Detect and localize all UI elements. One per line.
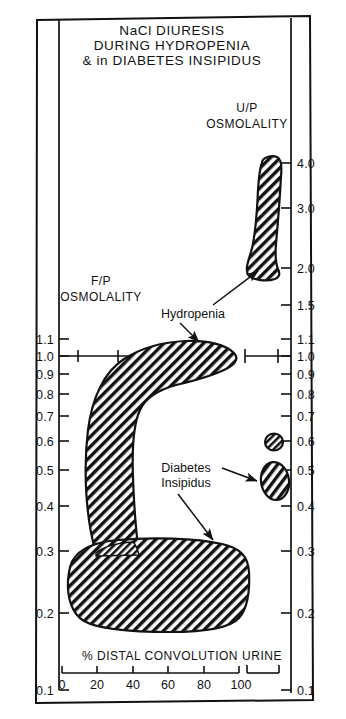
diabetes-arrow-to-urine xyxy=(222,468,257,481)
x-tick-label: 0 xyxy=(59,678,66,692)
x-tick-label: 60 xyxy=(161,678,175,692)
left-tick-label: 0.6 xyxy=(36,435,54,449)
right-tick-label: 0.9 xyxy=(297,368,315,382)
hydropenia-band xyxy=(86,341,237,553)
hydropenia-annotation-label: Hydropenia xyxy=(161,307,225,321)
right-axis-ticks xyxy=(281,163,291,690)
left-tick-label: 0.5 xyxy=(36,464,54,478)
x-tick-label: 20 xyxy=(90,678,104,692)
right-axis-label-line2: OSMOLALITY xyxy=(206,117,288,131)
left-tick-label: 0.3 xyxy=(36,545,54,559)
right-tick-label: 0.6 xyxy=(297,435,315,449)
urine-bracket xyxy=(247,665,279,673)
chart-svg: NaCl DIURESIS DURING HYDROPENIA & in DIA… xyxy=(0,0,346,719)
right-tick-label: 0.2 xyxy=(297,607,315,621)
left-axis-tick-labels: 1.1 1.0 0.9 0.8 0.7 0.6 0.5 0.4 0.3 0.2 … xyxy=(36,333,54,698)
right-tick-label: 1.0 xyxy=(297,350,315,364)
left-tick-label: 0.7 xyxy=(36,410,54,424)
urine-axis-label: URINE xyxy=(242,649,282,663)
hydropenia-arrow-to-band xyxy=(180,323,199,342)
title-line-2: DURING HYDROPENIA xyxy=(94,38,250,53)
diabetes-insipidus-band xyxy=(68,538,249,632)
figure-panel: NaCl DIURESIS DURING HYDROPENIA & in DIA… xyxy=(0,0,346,719)
x-tick-label: 80 xyxy=(197,678,211,692)
right-tick-label: 3.0 xyxy=(297,202,315,216)
x-tick-label: 100 xyxy=(231,678,252,692)
left-tick-label: 0.2 xyxy=(36,607,54,621)
right-tick-label: 1.5 xyxy=(297,299,315,313)
diabetes-annotation-line1: Diabetes xyxy=(161,461,210,475)
figure-title: NaCl DIURESIS DURING HYDROPENIA & in DIA… xyxy=(83,23,262,68)
left-tick-label: 0.8 xyxy=(36,388,54,402)
x-axis-tick-labels: 0 20 40 60 80 100 xyxy=(59,678,252,692)
right-tick-label: 0.8 xyxy=(297,388,315,402)
title-line-3: & in DIABETES INSIPIDUS xyxy=(83,53,262,68)
x-tick-label: 40 xyxy=(126,678,140,692)
left-axis-label-line2: OSMOLALITY xyxy=(60,290,142,304)
right-tick-label: 0.3 xyxy=(297,545,315,559)
hydropenia-urine-blob xyxy=(247,156,282,280)
title-line-1: NaCl DIURESIS xyxy=(119,23,224,38)
right-tick-label: 0.1 xyxy=(297,684,315,698)
left-tick-label: 0.1 xyxy=(36,684,54,698)
left-axis-label-line1: F/P xyxy=(91,274,111,288)
left-tick-label: 1.0 xyxy=(36,350,54,364)
right-tick-label: 4.0 xyxy=(297,157,315,171)
hydropenia-arrow-to-urine xyxy=(213,271,258,305)
left-axis-ticks xyxy=(59,339,69,690)
x-axis-scale xyxy=(62,666,239,673)
left-tick-label: 1.1 xyxy=(36,333,54,347)
right-tick-label: 0.7 xyxy=(297,410,315,424)
diabetes-annotation-line2: Insipidus xyxy=(161,476,210,490)
diabetes-urine-blob-large xyxy=(258,460,291,502)
right-axis-label: U/P OSMOLALITY xyxy=(206,101,288,131)
right-tick-label: 0.5 xyxy=(297,464,315,478)
diabetes-urine-blob-small xyxy=(265,434,283,451)
right-tick-label: 0.4 xyxy=(297,500,315,514)
x-axis-label: % DISTAL CONVOLUTION xyxy=(82,649,238,663)
right-tick-label: 2.0 xyxy=(297,262,315,276)
left-tick-label: 0.9 xyxy=(36,368,54,382)
diabetes-arrow-to-band xyxy=(178,494,213,540)
right-axis-label-line1: U/P xyxy=(236,101,258,115)
right-tick-label: 1.1 xyxy=(297,333,315,347)
left-tick-label: 0.4 xyxy=(36,500,54,514)
left-axis-label: F/P OSMOLALITY xyxy=(60,274,142,304)
